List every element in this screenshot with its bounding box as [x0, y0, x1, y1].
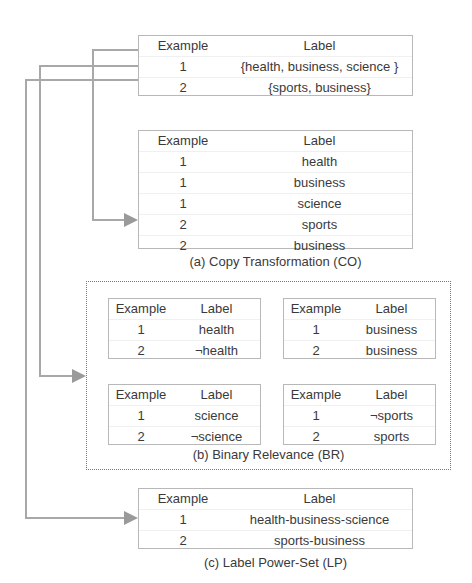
label-cell: health — [173, 320, 260, 340]
table-row: 2 ¬health — [109, 341, 260, 361]
header-label: Label — [227, 489, 412, 509]
example-cell: 1 — [139, 57, 227, 77]
table-header: Example Label — [139, 131, 412, 152]
example-cell: 2 — [109, 427, 173, 447]
table-header: Example Label — [139, 36, 412, 57]
table-row: 1 health-business-science — [139, 510, 412, 531]
example-cell: 2 — [109, 341, 173, 361]
example-cell: 2 — [139, 236, 227, 256]
label-cell: {health, business, science } — [227, 57, 412, 77]
label-cell: business — [227, 173, 412, 193]
header-label: Label — [227, 36, 412, 56]
table-row: 1 health — [109, 320, 260, 341]
label-cell: business — [348, 341, 435, 361]
example-cell: 1 — [139, 173, 227, 193]
co-caption: (a) Copy Transformation (CO) — [138, 254, 413, 269]
table-row: 2 business — [139, 236, 412, 256]
example-cell: 1 — [139, 152, 227, 172]
example-cell: 1 — [139, 510, 227, 530]
table-row: 1 business — [139, 173, 412, 194]
label-cell: ¬sports — [348, 406, 435, 426]
label-cell: sports — [348, 427, 435, 447]
header-example: Example — [139, 131, 227, 151]
arrowhead-lp-icon — [124, 511, 138, 525]
table-row: 1 science — [109, 406, 260, 427]
label-cell: science — [173, 406, 260, 426]
table-header: Example Label — [284, 299, 435, 320]
table-row: 1 {health, business, science } — [139, 57, 412, 78]
br-table-science: Example Label 1 science 2 ¬science — [108, 384, 261, 445]
table-header: Example Label — [139, 489, 412, 510]
table-row: 2 sports — [284, 427, 435, 447]
arrowhead-co-icon — [124, 213, 138, 227]
example-cell: 2 — [284, 427, 348, 447]
label-cell: ¬science — [173, 427, 260, 447]
example-cell: 2 — [284, 341, 348, 361]
label-cell: business — [227, 236, 412, 256]
table-row: 1 health — [139, 152, 412, 173]
example-cell: 1 — [139, 194, 227, 214]
header-label: Label — [173, 299, 260, 319]
header-example: Example — [109, 299, 173, 319]
label-cell: health — [227, 152, 412, 172]
example-cell: 2 — [139, 215, 227, 235]
br-table-health: Example Label 1 health 2 ¬health — [108, 298, 261, 359]
example-cell: 1 — [109, 320, 173, 340]
header-label: Label — [173, 385, 260, 405]
br-caption: (b) Binary Relevance (BR) — [86, 447, 451, 462]
br-table-sports: Example Label 1 ¬sports 2 sports — [283, 384, 436, 445]
label-cell: science — [227, 194, 412, 214]
label-cell: sports-business — [227, 531, 412, 551]
header-label: Label — [227, 131, 412, 151]
table-row: 1 ¬sports — [284, 406, 435, 427]
label-cell: health-business-science — [227, 510, 412, 530]
label-cell: ¬health — [173, 341, 260, 361]
header-example: Example — [284, 385, 348, 405]
header-example: Example — [139, 36, 227, 56]
example-cell: 1 — [284, 320, 348, 340]
label-cell: business — [348, 320, 435, 340]
table-row: 2 business — [284, 341, 435, 361]
co-table: Example Label 1 health 1 business 1 scie… — [138, 130, 413, 249]
table-row: 1 science — [139, 194, 412, 215]
label-cell: sports — [227, 215, 412, 235]
table-header: Example Label — [109, 299, 260, 320]
header-label: Label — [348, 385, 435, 405]
table-row: 2 {sports, business} — [139, 78, 412, 98]
original-table: Example Label 1 {health, business, scien… — [138, 35, 413, 96]
lp-table: Example Label 1 health-business-science … — [138, 488, 413, 549]
header-example: Example — [109, 385, 173, 405]
table-header: Example Label — [284, 385, 435, 406]
br-table-business: Example Label 1 business 2 business — [283, 298, 436, 359]
example-cell: 2 — [139, 531, 227, 551]
header-label: Label — [348, 299, 435, 319]
table-header: Example Label — [109, 385, 260, 406]
connector-to-co — [93, 50, 138, 220]
lp-caption: (c) Label Power-Set (LP) — [138, 555, 413, 570]
example-cell: 1 — [284, 406, 348, 426]
table-row: 2 sports-business — [139, 531, 412, 551]
table-row: 2 ¬science — [109, 427, 260, 447]
header-example: Example — [139, 489, 227, 509]
example-cell: 2 — [139, 78, 227, 98]
example-cell: 1 — [109, 406, 173, 426]
label-cell: {sports, business} — [227, 78, 412, 98]
table-row: 2 sports — [139, 215, 412, 236]
table-row: 1 business — [284, 320, 435, 341]
header-example: Example — [284, 299, 348, 319]
arrowhead-br-icon — [72, 369, 86, 383]
